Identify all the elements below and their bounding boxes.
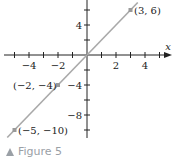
data-point [129,8,133,12]
triangle-icon [6,148,14,156]
x-axis-arrow-icon [164,52,172,58]
point-label: (3, 6) [134,5,161,16]
x-tick-label: −4 [22,60,37,71]
data-point [13,128,17,132]
x-tick-label: 2 [113,60,119,71]
x-tick-label: −2 [51,60,66,71]
y-tick-label: −8 [67,110,82,121]
y-tick-label: 4 [76,20,82,31]
point-label: (−2, −4) [13,80,57,91]
y-tick-label: −4 [67,80,82,91]
figure-caption: Figure 5 [6,145,62,158]
caption-text: Figure 5 [18,145,62,158]
x-axis-label: x [165,41,171,52]
chart: −4 −2 2 4 4 −4 −8 x (3, 6) (−2, −4) (−5,… [0,0,174,165]
x-tick-label: 4 [142,60,148,71]
point-label: (−5, −10) [18,125,68,136]
